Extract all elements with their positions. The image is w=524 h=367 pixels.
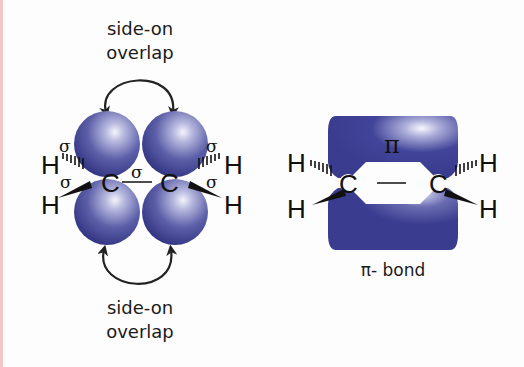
sigma-label-top-right: σ bbox=[206, 136, 218, 156]
pi-h-bottom-left: H bbox=[287, 194, 306, 224]
h-bottom-right: H bbox=[224, 190, 243, 220]
bonding-diagram: side-on overlap bbox=[0, 0, 524, 367]
right-pi-diagram: π C C H H H H bbox=[287, 116, 498, 280]
pi-carbon-right: C bbox=[429, 169, 448, 199]
bottom-overlap-label-line2: overlap bbox=[106, 321, 174, 342]
pi-carbon-left: C bbox=[339, 169, 358, 199]
sigma-label-center: σ bbox=[131, 162, 143, 182]
sigma-label-top-left: σ bbox=[59, 136, 71, 156]
top-overlap-arrow-icon bbox=[105, 80, 173, 112]
pi-h-top-left: H bbox=[287, 148, 306, 178]
pi-bond-caption: π- bond bbox=[361, 260, 426, 280]
h-bottom-left: H bbox=[41, 190, 60, 220]
sigma-label-bottom-right: σ bbox=[206, 172, 218, 192]
bottom-overlap-arrow-icon bbox=[103, 250, 171, 284]
top-overlap-label-line1: side-on bbox=[107, 18, 173, 39]
pi-hashed-bond-right-icon bbox=[456, 160, 476, 176]
pi-h-bottom-right: H bbox=[479, 194, 498, 224]
bottom-overlap-label-line1: side-on bbox=[107, 297, 173, 318]
pi-h-top-right: H bbox=[479, 148, 498, 178]
left-sigma-diagram: side-on overlap bbox=[41, 18, 243, 342]
h-top-right: H bbox=[224, 150, 243, 180]
carbon-right: C bbox=[160, 168, 179, 198]
carbon-left: C bbox=[101, 168, 120, 198]
pi-symbol: π bbox=[384, 131, 400, 159]
pi-hashed-bond-left-icon bbox=[311, 160, 331, 176]
top-overlap-label-line2: overlap bbox=[106, 42, 174, 63]
h-top-left: H bbox=[41, 150, 60, 180]
sigma-label-bottom-left: σ bbox=[60, 172, 72, 192]
